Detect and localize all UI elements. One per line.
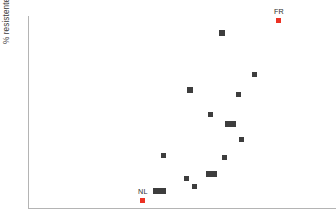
data-point: [239, 137, 244, 142]
scatter-plot-figure: % resistente S. pneumoniae FRNL: [0, 0, 336, 223]
data-point: [184, 176, 189, 181]
data-point: [161, 153, 166, 158]
data-point: [222, 155, 227, 160]
plot-area: [28, 16, 336, 209]
data-point: [192, 184, 197, 189]
data-point: [252, 72, 257, 77]
data-point: [208, 112, 213, 117]
data-point: [219, 30, 225, 36]
x-axis-line: [28, 208, 336, 209]
data-point-label: FR: [274, 8, 284, 16]
data-point: [187, 87, 193, 93]
data-point-highlighted: [140, 198, 145, 203]
y-axis-line: [28, 16, 29, 209]
y-axis-title-prefix: % resistente: [2, 0, 11, 44]
data-point: [153, 188, 166, 194]
data-point: [225, 121, 236, 127]
data-point-label: NL: [138, 188, 148, 196]
data-point-highlighted: [276, 18, 281, 23]
data-point: [206, 171, 217, 177]
data-point: [236, 92, 241, 97]
y-axis-title: % resistente S. pneumoniae: [0, 0, 14, 44]
